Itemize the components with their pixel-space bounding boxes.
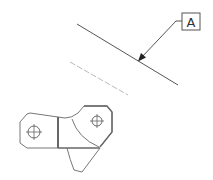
hidden-construction-line — [70, 62, 128, 95]
datum-edge-line[interactable] — [77, 24, 178, 85]
hole-left — [26, 124, 42, 140]
datum-label: A — [187, 15, 196, 30]
drawing-canvas: A — [0, 0, 213, 180]
hole-right — [90, 114, 104, 128]
datum-label-box[interactable]: A — [182, 13, 200, 30]
datum-leader-arrow — [138, 21, 182, 62]
